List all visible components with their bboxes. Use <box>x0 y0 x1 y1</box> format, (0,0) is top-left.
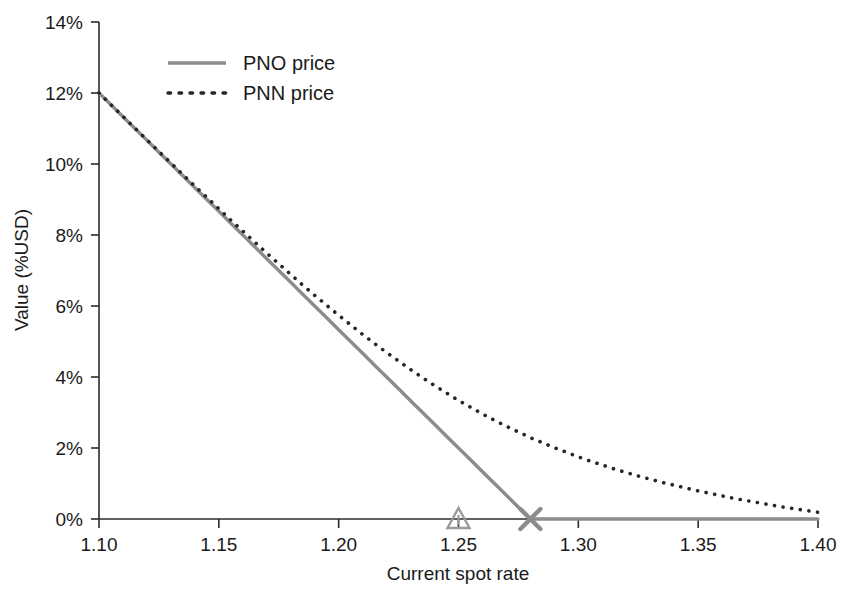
series-line-pno-price <box>99 93 818 519</box>
x-tick-label: 1.15 <box>200 534 237 555</box>
y-tick-label: 12% <box>45 83 83 104</box>
y-axis-title: Value (%USD) <box>11 209 32 331</box>
x-tick-label: 1.10 <box>81 534 118 555</box>
chart-container: 0%2%4%6%8%10%12%14% 1.101.151.201.251.30… <box>0 0 842 599</box>
data-series-group <box>99 93 818 519</box>
x-tick-label: 1.25 <box>440 534 477 555</box>
y-tick-label: 4% <box>56 367 84 388</box>
y-tick-label: 6% <box>56 296 84 317</box>
chart-plot-area: 0%2%4%6%8%10%12%14% 1.101.151.201.251.30… <box>0 0 842 599</box>
chart-legend: PNO price PNN price <box>168 52 335 104</box>
y-tick-label: 8% <box>56 225 84 246</box>
y-tick-label: 10% <box>45 154 83 175</box>
x-tick-label: 1.40 <box>800 534 837 555</box>
y-tick-label: 0% <box>56 509 84 530</box>
legend-label-pno-price: PNO price <box>243 52 335 74</box>
x-tick-label: 1.20 <box>320 534 357 555</box>
legend-label-pnn-price: PNN price <box>243 82 334 104</box>
x-axis-title: Current spot rate <box>387 563 530 584</box>
y-tick-label: 2% <box>56 438 84 459</box>
y-tick-label: 14% <box>45 12 83 33</box>
x-tick-label: 1.35 <box>680 534 717 555</box>
y-axis-ticks: 0%2%4%6%8%10%12%14% <box>45 12 99 530</box>
x-tick-label: 1.30 <box>560 534 597 555</box>
